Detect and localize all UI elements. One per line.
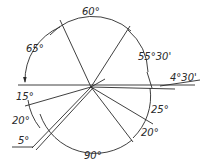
arc-90 [40,114,132,153]
radial-lines [12,20,200,150]
label-20-left: 20° [12,115,30,126]
label-25: 25° [151,104,169,115]
label-5: 5° [18,135,29,146]
line-25 [91,87,153,124]
angle-labels: 60° 65° 55°30' 4°30' 15° 20° 5° 90° 25° … [12,6,197,161]
line-upper-left [60,20,91,87]
line-20 [91,87,133,142]
label-60: 60° [82,6,100,17]
label-15: 15° [16,91,34,102]
label-55-30: 55°30' [138,51,171,62]
arc-65 [25,27,60,82]
line-15 [25,87,91,106]
label-65: 65° [26,43,44,54]
line-5-b [36,88,93,150]
angle-diagram: 60° 65° 55°30' 4°30' 15° 20° 5° 90° 25° … [0,0,208,165]
label-20-right: 20° [141,127,159,138]
label-4-30: 4°30' [170,72,197,83]
line-upper-right [91,26,130,87]
line-4-30 [90,87,175,89]
label-90: 90° [84,150,102,161]
leader-55-30 [147,72,152,88]
